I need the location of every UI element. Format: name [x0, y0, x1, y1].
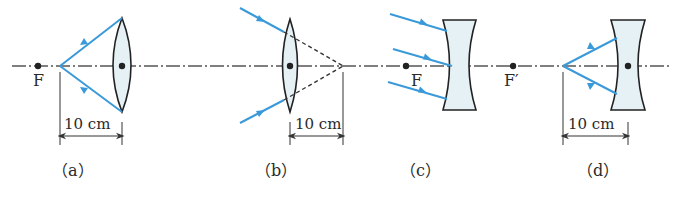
ray-arrow-icon: [256, 15, 265, 22]
focal-point-f-prime-c: [510, 63, 516, 69]
caption-c: （c）: [400, 161, 441, 180]
lens-diagram-figure: F 10 cm （a） 10 cm （b） F F′: [0, 0, 678, 202]
optical-center-d: [625, 63, 631, 69]
ray-arrow-icon: [80, 87, 88, 94]
panel-b: 10 cm （b）: [240, 8, 343, 180]
dimension-label-a: 10 cm: [64, 115, 110, 133]
ray-arrow-icon: [423, 54, 432, 61]
panel-c: F F′ （c）: [388, 14, 519, 180]
caption-b: （b）: [255, 161, 297, 180]
caption-d: （d）: [577, 161, 619, 180]
optical-center-a: [119, 63, 125, 69]
panel-d: 10 cm （d）: [563, 20, 645, 180]
focal-point-f-a: [35, 63, 41, 69]
ray-arrow-icon: [256, 110, 265, 117]
ray-arrow-icon: [587, 42, 595, 49]
optical-center-b: [287, 63, 293, 69]
dimension-label-b: 10 cm: [295, 115, 341, 133]
focal-label-f-prime-c: F′: [504, 71, 519, 90]
focal-point-f-c: [403, 63, 409, 69]
ray-top-c: [390, 14, 447, 31]
ray-arrow-icon: [419, 19, 428, 26]
focal-label-f-a: F: [33, 71, 44, 90]
ray-arrow-icon: [587, 83, 595, 90]
panel-a: F 10 cm （a）: [33, 18, 131, 180]
caption-a: （a）: [52, 161, 94, 180]
dimension-label-d: 10 cm: [568, 115, 614, 133]
ray-arrow-icon: [80, 38, 88, 45]
ray-middle-c: [393, 49, 452, 66]
